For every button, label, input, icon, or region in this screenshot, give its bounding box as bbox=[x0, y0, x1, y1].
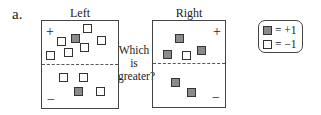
dashed-divider bbox=[42, 64, 118, 65]
legend-label: = −1 bbox=[275, 38, 297, 50]
negative-tile bbox=[97, 36, 106, 45]
problem-label: a. bbox=[12, 6, 22, 23]
minus-sign: − bbox=[47, 93, 55, 107]
positive-tile bbox=[197, 46, 206, 55]
negative-tile bbox=[59, 73, 68, 82]
positive-tile-icon bbox=[263, 26, 272, 35]
question-text: Which is greater? bbox=[118, 44, 150, 83]
negative-tile bbox=[80, 43, 89, 52]
legend-label: = +1 bbox=[275, 24, 297, 36]
plus-sign: + bbox=[213, 25, 221, 39]
negative-tile-icon bbox=[263, 40, 272, 49]
negative-tile bbox=[83, 24, 92, 33]
right-panel: + − bbox=[152, 20, 226, 108]
legend-item-negative: = −1 bbox=[263, 38, 297, 50]
question-line-3: greater? bbox=[118, 70, 150, 83]
positive-tile bbox=[74, 87, 83, 96]
minus-sign: − bbox=[212, 91, 220, 105]
positive-tile bbox=[187, 88, 196, 97]
legend: = +1 = −1 bbox=[258, 20, 303, 53]
dashed-divider bbox=[153, 63, 225, 64]
positive-tile bbox=[163, 50, 172, 59]
negative-tile bbox=[57, 37, 66, 46]
negative-tile bbox=[79, 73, 88, 82]
negative-tile bbox=[96, 87, 105, 96]
left-panel: + − bbox=[41, 20, 119, 109]
question-line-2: is bbox=[118, 57, 150, 70]
right-panel-title: Right bbox=[152, 6, 226, 21]
positive-tile bbox=[71, 34, 80, 43]
negative-tile bbox=[46, 51, 55, 60]
question-line-1: Which bbox=[118, 44, 150, 57]
positive-tile bbox=[175, 34, 184, 43]
legend-item-positive: = +1 bbox=[263, 24, 297, 36]
negative-tile bbox=[182, 51, 191, 60]
positive-tile bbox=[171, 78, 180, 87]
plus-sign: + bbox=[46, 25, 54, 39]
left-panel-title: Left bbox=[41, 6, 119, 21]
negative-tile bbox=[64, 48, 73, 57]
